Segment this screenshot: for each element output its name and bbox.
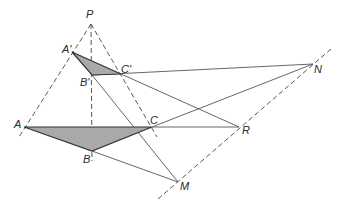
triangle-abc — [24, 127, 152, 151]
label-c1: C' — [121, 63, 132, 75]
line-pc — [91, 24, 157, 137]
label-b: B — [83, 153, 90, 165]
label-b1: B' — [80, 76, 90, 88]
label-r: R — [242, 124, 250, 136]
label-a1: A' — [61, 43, 72, 55]
label-a: A — [13, 118, 21, 130]
line-a1c1-to-r — [121, 74, 239, 127]
label-m: M — [180, 180, 190, 192]
desargues-diagram: P A' B' C' A B C N R M — [0, 0, 341, 210]
label-c: C — [150, 114, 158, 126]
line-bc-to-n — [152, 64, 313, 127]
label-p: P — [86, 8, 94, 20]
label-n: N — [314, 63, 322, 75]
triangle-a1b1c1 — [72, 52, 121, 75]
